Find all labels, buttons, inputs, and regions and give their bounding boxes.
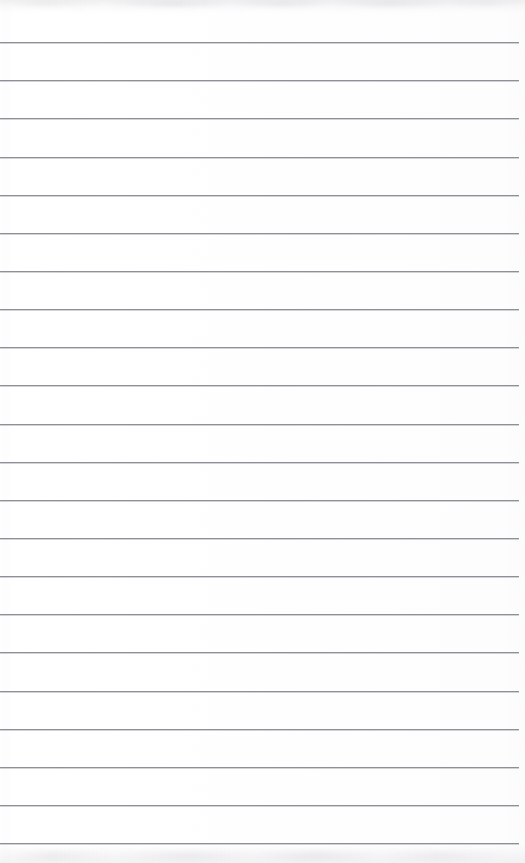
rule-line [0, 500, 519, 501]
rule-line [0, 729, 519, 730]
rule-line [0, 271, 519, 272]
rule-line [0, 652, 519, 653]
rule-line [0, 576, 519, 577]
rule-line [0, 309, 519, 310]
rule-line [0, 805, 519, 806]
rule-line [0, 157, 519, 158]
rule-line [0, 80, 519, 81]
rule-line [0, 843, 519, 844]
scanned-page [0, 0, 525, 863]
rule-line [0, 195, 519, 196]
rule-line [0, 42, 519, 43]
rule-line [0, 385, 519, 386]
rule-line [0, 424, 519, 425]
rule-line [0, 767, 519, 768]
rule-line [0, 538, 519, 539]
rule-line [0, 118, 519, 119]
rule-line [0, 691, 519, 692]
ruled-lines-layer [0, 0, 525, 863]
rule-line [0, 614, 519, 615]
rule-line [0, 347, 519, 348]
rule-line [0, 462, 519, 463]
rule-line [0, 233, 519, 234]
